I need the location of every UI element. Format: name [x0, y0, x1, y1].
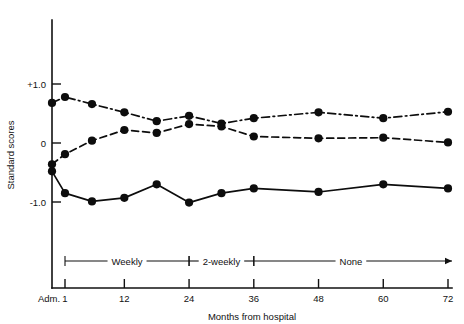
y-axis-tick-labels: +1.00-1.0	[27, 79, 46, 208]
data-point	[88, 100, 96, 108]
series-dashed	[48, 120, 452, 168]
data-point	[48, 99, 56, 107]
data-point	[185, 198, 193, 206]
data-point	[120, 126, 128, 134]
x-tick-label-3: 24	[184, 293, 195, 304]
data-point	[185, 120, 193, 128]
data-point	[250, 132, 258, 140]
data-point	[48, 167, 56, 175]
x-axis-ticks	[65, 279, 448, 288]
data-point	[444, 138, 452, 146]
chart-figure: +1.00-1.0 Adm.1122436486072 Weekly2-week…	[0, 0, 464, 324]
treatment-frequency-band: Weekly2-weeklyNone	[65, 256, 452, 267]
data-point	[314, 188, 322, 196]
series-solid	[48, 167, 452, 206]
data-point	[250, 184, 258, 192]
data-point	[379, 180, 387, 188]
data-point	[153, 117, 161, 125]
x-tick-label-0: Adm.	[38, 293, 60, 304]
data-point	[61, 189, 69, 197]
data-point	[444, 108, 452, 116]
x-tick-label-6: 60	[378, 293, 389, 304]
series-dashed-line	[52, 124, 448, 164]
data-point	[314, 108, 322, 116]
y-tick-label-2: -1.0	[30, 197, 46, 208]
band-arrowhead	[445, 258, 452, 264]
series-dash-dot	[48, 93, 452, 128]
x-tick-label-5: 48	[313, 293, 324, 304]
band-label-none: None	[340, 256, 363, 267]
data-point	[61, 150, 69, 158]
data-series-layer	[48, 93, 452, 207]
data-point	[185, 112, 193, 120]
y-tick-label-0: +1.0	[27, 79, 46, 90]
data-point	[120, 194, 128, 202]
data-point	[61, 93, 69, 101]
chart-canvas: +1.00-1.0 Adm.1122436486072 Weekly2-week…	[0, 0, 464, 324]
band-label-2-weekly: 2-weekly	[203, 256, 241, 267]
y-tick-label-1: 0	[41, 138, 46, 149]
data-point	[48, 160, 56, 168]
data-point	[120, 108, 128, 116]
x-tick-label-7: 72	[443, 293, 454, 304]
data-point	[88, 137, 96, 145]
data-point	[314, 134, 322, 142]
x-axis-tick-labels: Adm.1122436486072	[38, 293, 453, 304]
data-point	[217, 122, 225, 130]
data-point	[153, 129, 161, 137]
y-axis-title: Standard scores	[5, 120, 16, 189]
x-tick-label-1: 1	[62, 293, 67, 304]
axes-group	[52, 20, 452, 288]
data-point	[153, 180, 161, 188]
data-point	[379, 114, 387, 122]
data-point	[217, 189, 225, 197]
data-point	[88, 197, 96, 205]
band-label-weekly: Weekly	[112, 256, 143, 267]
data-point	[379, 134, 387, 142]
data-point	[444, 184, 452, 192]
x-tick-label-2: 12	[119, 293, 130, 304]
x-tick-label-4: 36	[249, 293, 260, 304]
data-point	[250, 114, 258, 122]
x-axis-title: Months from hospital	[208, 311, 296, 322]
